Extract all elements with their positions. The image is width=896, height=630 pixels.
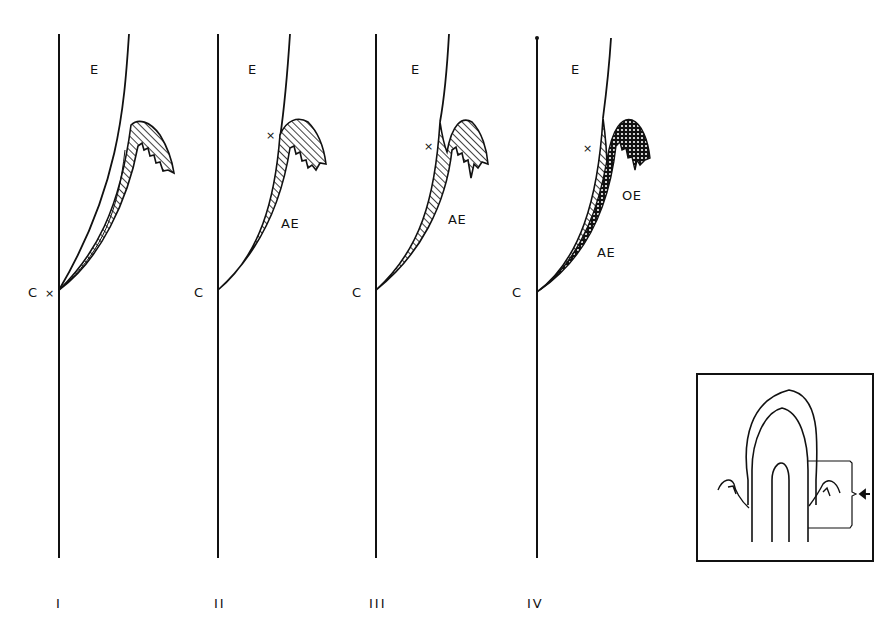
cervical-label: C xyxy=(512,286,522,299)
x-marker: × xyxy=(424,141,433,152)
enamel-label: E xyxy=(90,63,99,76)
enamel-outline-curve xyxy=(603,38,611,118)
enamel-label: E xyxy=(248,63,257,76)
panel-numeral: II xyxy=(214,597,226,610)
attached-epithelium-label: AE xyxy=(597,246,615,259)
inset-frame xyxy=(697,374,873,561)
panel-numeral: IV xyxy=(527,597,544,610)
attached-epithelium-label: AE xyxy=(448,213,466,226)
oral-epithelium-label: OE xyxy=(622,189,641,202)
panel-iv xyxy=(535,36,650,558)
x-marker: × xyxy=(45,288,54,299)
line-end-dot xyxy=(535,36,539,40)
panel-iii xyxy=(376,34,488,558)
enamel-outline-curve xyxy=(440,34,449,122)
inset-orientation-sketch xyxy=(697,374,873,561)
panel-i xyxy=(59,34,174,558)
enamel-label: E xyxy=(411,63,420,76)
panel-ii xyxy=(218,34,326,558)
panel-numeral: III xyxy=(369,597,387,610)
x-marker: × xyxy=(583,143,592,154)
reduced-enamel-epithelium xyxy=(218,119,326,290)
cervical-label: C xyxy=(194,286,204,299)
panel-numeral: I xyxy=(56,597,62,610)
diagram-canvas xyxy=(0,0,896,630)
cervical-label: C xyxy=(352,286,362,299)
attached-epithelium-label: AE xyxy=(281,217,299,230)
cervical-label: C xyxy=(28,286,38,299)
enamel-label: E xyxy=(571,63,580,76)
x-marker: × xyxy=(266,130,275,141)
